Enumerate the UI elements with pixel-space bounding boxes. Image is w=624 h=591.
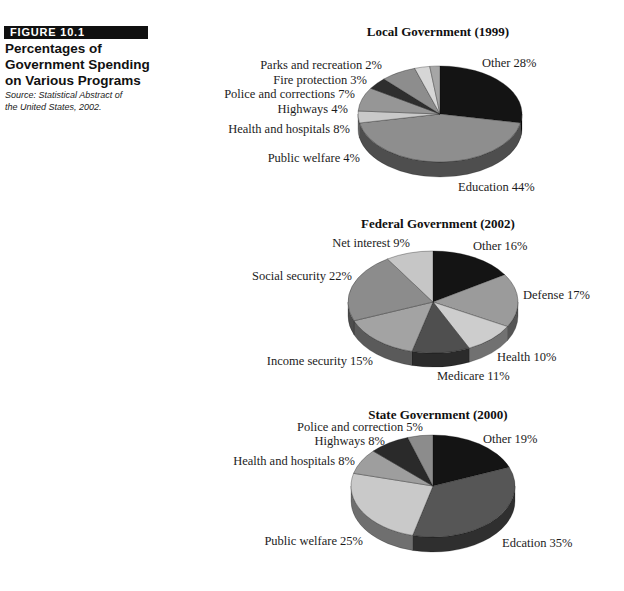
label-local-police-and-corrections: Police and corrections 7% <box>224 87 355 102</box>
label-local-highways: Highways 4% <box>278 102 348 117</box>
label-state-police-and-correction: Police and correction 5% <box>297 420 423 435</box>
label-local-public-welfare: Public welfare 4% <box>268 151 360 166</box>
label-state-public-welfare: Public welfare 25% <box>264 534 363 549</box>
chart-title-local-government: Local Government (1999) <box>288 24 588 40</box>
pie-federal-government-2002 <box>348 251 518 367</box>
label-local-health-and-hospitals: Health and hospitals 8% <box>228 122 350 137</box>
label-local-fire-protection: Fire protection 3% <box>273 73 367 88</box>
label-state-health-and-hospitals: Health and hospitals 8% <box>233 454 355 469</box>
pie-local-government-1999 <box>358 66 522 177</box>
figure-page: FIGURE 10.1 Percentages of Government Sp… <box>0 0 624 591</box>
label-federal-income-security: Income security 15% <box>267 354 373 369</box>
label-federal-health: Health 10% <box>497 350 556 365</box>
chart-title-federal-government: Federal Government (2002) <box>288 216 588 232</box>
label-federal-social-security: Social security 22% <box>252 269 352 284</box>
label-state-edcation: Edcation 35% <box>502 536 572 551</box>
label-local-other: Other 28% <box>482 56 537 71</box>
pie-slice-other <box>440 66 522 123</box>
label-state-other: Other 19% <box>483 432 538 447</box>
label-federal-defense: Defense 17% <box>523 288 590 303</box>
label-federal-net-interest: Net interest 9% <box>332 236 410 251</box>
label-state-highways: Highways 8% <box>315 434 385 449</box>
pie-state-government-2000 <box>351 435 515 552</box>
label-federal-other: Other 16% <box>473 239 528 254</box>
label-local-education: Education 44% <box>458 180 535 195</box>
label-local-parks-and-recreation: Parks and recreation 2% <box>260 58 382 73</box>
label-federal-medicare: Medicare 11% <box>437 369 510 384</box>
